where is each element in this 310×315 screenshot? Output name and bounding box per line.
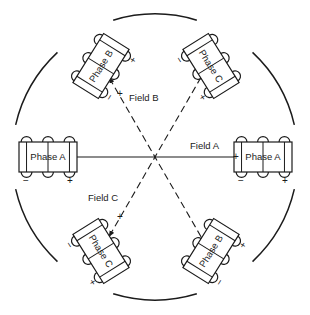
coil-terminal-negative: − [238,175,244,186]
winding-loop-top [21,137,32,142]
stator-field-diagram: Phase A−+Phase A−+Phase B−+Phase C−+Phas… [0,0,310,315]
coil-label: Phase A [245,151,281,162]
winding-loop-top [43,137,54,142]
winding-loop-bottom [43,172,54,177]
coil-terminal-negative: − [23,175,29,186]
coil-phase-c-upper-right: Phase C−+ [171,31,244,106]
coil-terminal-positive: + [197,92,210,103]
coil-terminal-negative: − [173,54,186,65]
stator-arc [253,189,295,261]
coil-terminal-negative: − [213,277,226,288]
field-label-field-a: Field A [190,140,219,151]
coil-terminal-negative: − [63,239,76,250]
stator-arc [253,52,295,124]
field-label-field-b: Field B [129,92,159,103]
stator-arc [16,189,58,261]
coil-terminal-positive: + [126,54,139,65]
coil-label: Phase A [30,151,66,162]
coil-terminal-negative: − [103,92,116,103]
coils-group: Phase A−+Phase A−+Phase B−+Phase C−+Phas… [19,31,292,291]
coil-phase-a-right: Phase A−+ [234,137,292,186]
coil-phase-b-lower-right: Phase B−+ [178,216,251,291]
coil-phase-a-left: Phase A−+ [19,137,77,186]
field-polarity-field-a: + [233,152,239,162]
field-polarity-field-c: + [117,212,123,222]
winding-loop-top [236,137,247,142]
stator-arc [113,14,197,20]
winding-loop-top [64,137,75,142]
diagram-canvas: Phase A−+Phase A−+Phase B−+Phase C−+Phas… [0,0,310,315]
field-polarity-field-b: + [117,89,123,99]
winding-loop-top [279,137,290,142]
stator-arc [16,52,58,124]
coil-terminal-positive: + [87,277,100,288]
winding-loop-top [258,137,269,142]
coil-terminal-positive: + [67,175,73,186]
field-label-field-c: Field C [88,192,118,203]
coil-terminal-positive: + [236,239,249,250]
coil-terminal-positive: + [282,175,288,186]
stator-arc [113,294,197,300]
coil-phase-c-lower-left: Phase C−+ [61,216,134,291]
winding-loop-bottom [258,172,269,177]
